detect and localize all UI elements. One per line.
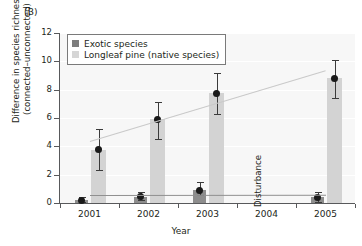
y-tick-label: 10 <box>26 55 52 65</box>
y-tick-mark <box>54 61 60 62</box>
error-bar-cap <box>332 98 339 99</box>
data-point-exotic-2003 <box>196 187 203 194</box>
y-tick-mark <box>54 146 60 147</box>
annotation-disturbance: Disturbance <box>253 155 263 207</box>
legend-item-native: Longleaf pine (native species) <box>72 49 219 60</box>
error-bar-cap <box>138 200 145 201</box>
x-tick-mark <box>237 204 238 208</box>
y-axis-label-line1: Difference in species richness <box>11 0 21 123</box>
y-axis-label: Difference in species richness (connecte… <box>11 0 33 144</box>
y-tick-mark <box>54 33 60 34</box>
error-bar-cap <box>214 114 221 115</box>
x-tick-label: 2001 <box>68 209 112 219</box>
x-tick-mark <box>355 204 356 208</box>
y-tick-label: 4 <box>26 140 52 150</box>
error-bar-cap <box>214 73 221 74</box>
y-tick-label: 0 <box>26 197 52 207</box>
error-bar-cap <box>96 129 103 130</box>
data-point-native-2005 <box>331 75 338 82</box>
x-tick-label: 2002 <box>127 209 171 219</box>
x-axis-spine <box>59 203 355 204</box>
error-bar-cap <box>96 170 103 171</box>
error-bar-cap <box>155 102 162 103</box>
y-tick-label: 2 <box>26 169 52 179</box>
y-tick-mark <box>54 118 60 119</box>
gridline <box>60 90 355 91</box>
data-point-native-2003 <box>213 90 220 97</box>
gridline <box>60 146 355 147</box>
error-bar-cap <box>155 139 162 140</box>
legend-label-native: Longleaf pine (native species) <box>84 50 219 60</box>
y-tick-mark <box>54 90 60 91</box>
x-tick-mark <box>296 204 297 208</box>
gridline <box>60 118 355 119</box>
y-tick-label: 12 <box>26 27 52 37</box>
error-bar-cap <box>315 202 322 203</box>
error-bar-cap <box>332 60 339 61</box>
x-axis-label: Year <box>0 226 362 236</box>
legend-item-exotic: Exotic species <box>72 38 219 49</box>
figure-panel-b: (B) Difference in species richness (conn… <box>0 0 362 246</box>
y-tick-mark <box>54 175 60 176</box>
x-tick-mark <box>60 204 61 208</box>
x-tick-mark <box>178 204 179 208</box>
legend-label-exotic: Exotic species <box>84 39 148 49</box>
trendline-exotic <box>89 194 325 196</box>
legend: Exotic species Longleaf pine (native spe… <box>67 34 226 65</box>
x-tick-label: 2005 <box>304 209 348 219</box>
legend-swatch-icon-native <box>72 51 79 58</box>
x-tick-mark <box>119 204 120 208</box>
data-point-exotic-2001 <box>78 197 85 204</box>
legend-swatch-icon-exotic <box>72 40 79 47</box>
x-tick-label: 2004 <box>245 209 289 219</box>
x-tick-label: 2003 <box>186 209 230 219</box>
y-tick-label: 6 <box>26 112 52 122</box>
error-bar-cap <box>315 192 322 193</box>
y-tick-label: 8 <box>26 84 52 94</box>
error-bar-cap <box>197 182 204 183</box>
